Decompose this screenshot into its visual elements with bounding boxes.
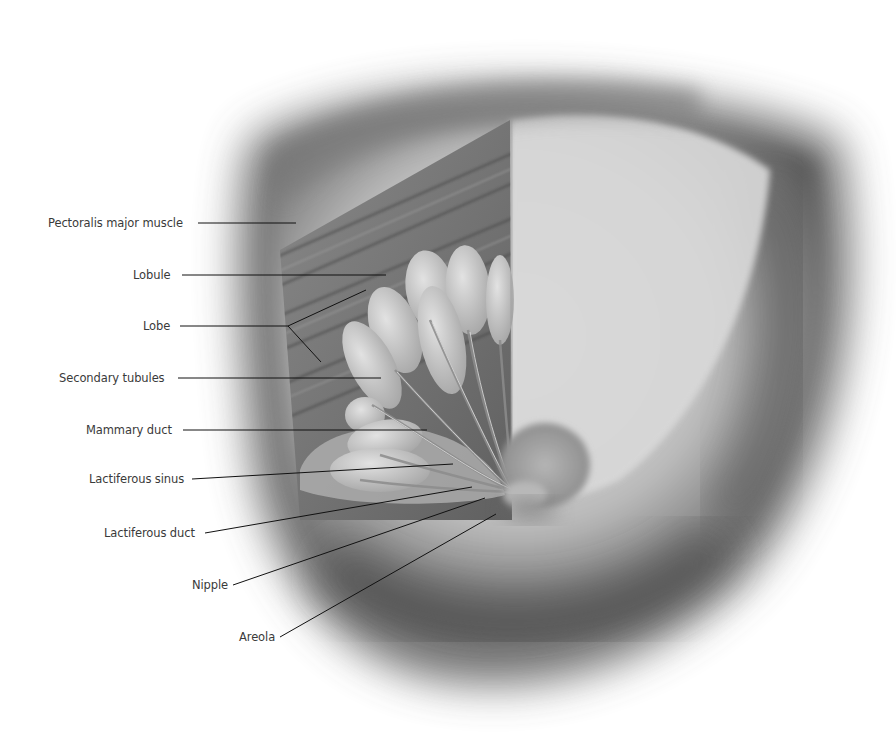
label-lobe: Lobe (143, 319, 170, 333)
label-mammary-duct: Mammary duct (86, 423, 172, 437)
label-areola: Areola (239, 630, 275, 644)
label-secondary-tubules: Secondary tubules (59, 371, 165, 385)
label-lactiferous-sinus: Lactiferous sinus (89, 472, 184, 486)
label-nipple: Nipple (192, 578, 228, 592)
label-lobule: Lobule (133, 268, 171, 282)
label-lactiferous-duct: Lactiferous duct (104, 526, 195, 540)
label-pectoralis-major-muscle: Pectoralis major muscle (48, 216, 183, 230)
